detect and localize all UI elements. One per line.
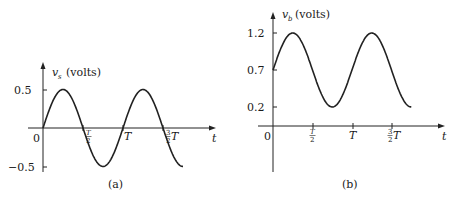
a-xtick-label-3half-num: 3 — [166, 129, 170, 137]
a-x-axis-arrow-icon — [209, 126, 216, 131]
b-x-axis-arrow-icon — [438, 124, 445, 129]
a-ylabel-unit: (volts) — [66, 66, 101, 79]
b-xtick-label-T: T — [349, 129, 358, 142]
a-xlabel: t — [212, 132, 217, 145]
b-ylabel-sub: b — [288, 15, 293, 23]
a-xtick-label-T: T — [124, 130, 133, 143]
a-ylabel-sub: s — [58, 73, 62, 81]
b-y-axis-arrow-icon — [271, 12, 276, 19]
a-ytick-label-pos: 0.5 — [14, 84, 32, 97]
panel-a: v s (volts) 0.5 −0.5 0 T 2 T 3 2 T t (a) — [8, 62, 217, 191]
a-xtick-label-3half-den: 2 — [166, 137, 170, 145]
b-xtick-label-3half-den: 2 — [388, 136, 392, 144]
b-xtick-label-3half-num: 3 — [388, 128, 392, 136]
b-xtick-label-half-den: 2 — [310, 136, 314, 144]
a-ytick-label-neg: −0.5 — [8, 161, 35, 174]
b-xlabel: t — [442, 130, 447, 143]
b-ylabel-unit: (volts) — [295, 8, 330, 21]
b-ytick-label-low: 0.2 — [247, 101, 265, 114]
a-xtick-label-half-num: T — [86, 129, 92, 137]
b-origin-label: 0 — [264, 130, 271, 143]
figure: v s (volts) 0.5 −0.5 0 T 2 T 3 2 T t (a)… — [0, 0, 460, 205]
b-waveform — [273, 33, 411, 107]
b-xtick-label-3half-T: T — [393, 129, 402, 142]
a-y-axis-arrow-icon — [41, 62, 46, 69]
a-origin-label: 0 — [33, 132, 40, 145]
b-ytick-label-top: 1.2 — [247, 27, 265, 40]
a-xtick-label-half-den: 2 — [86, 137, 90, 145]
b-xtick-label-half-num: T — [310, 128, 316, 136]
panel-b: v b (volts) 1.2 0.7 0.2 0 T 2 T 3 2 T t … — [247, 8, 447, 191]
a-caption: (a) — [108, 178, 123, 191]
a-xtick-label-3half-T: T — [171, 130, 180, 143]
b-ytick-label-mid: 0.7 — [247, 64, 265, 77]
b-caption: (b) — [342, 178, 358, 191]
